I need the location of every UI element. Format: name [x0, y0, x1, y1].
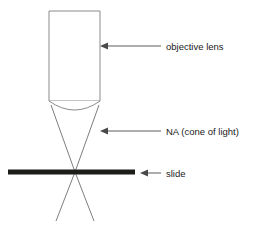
annotation-numerical-aperture: NA (cone of light)	[100, 126, 239, 137]
slide-label: slide	[166, 168, 186, 179]
light-cone-group	[51, 105, 99, 221]
diagram-canvas: objective lens NA (cone of light) slide	[0, 0, 258, 235]
annotation-slide: slide	[140, 168, 186, 179]
microscope-na-diagram: objective lens NA (cone of light) slide	[0, 0, 258, 235]
objective-lens-arrow-icon	[100, 43, 108, 50]
objective-lens-group	[49, 11, 100, 110]
objective-lens-label: objective lens	[166, 41, 224, 52]
objective-lens-barrel	[49, 11, 100, 101]
annotation-objective-lens: objective lens	[100, 41, 224, 52]
ray-lower-right	[75, 172, 94, 221]
slide-arrow-icon	[140, 170, 148, 177]
ray-lower-left	[56, 172, 75, 221]
objective-front-lens-curve	[49, 101, 100, 110]
na-arrow-icon	[100, 128, 108, 135]
ray-upper-left	[51, 105, 75, 172]
ray-upper-right	[75, 105, 99, 172]
na-label: NA (cone of light)	[166, 126, 239, 137]
